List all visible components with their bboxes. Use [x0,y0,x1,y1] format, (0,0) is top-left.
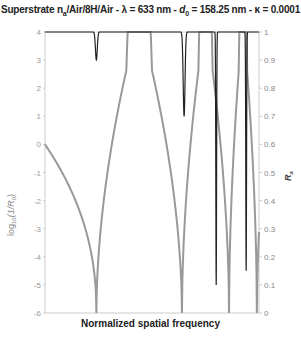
y-tick-left: -5 [34,281,42,290]
y-tick-right: 0 [264,309,269,318]
y-axis-right-label: Ra [283,170,294,181]
y-tick-right: 0.5 [264,169,276,178]
y-tick-left: 0 [37,140,42,149]
y-tick-right: 0.2 [264,253,276,262]
y-tick-left: 4 [37,28,42,37]
y-tick-left: 2 [37,84,42,93]
y-tick-left: -1 [34,169,42,178]
svg-text:log10(1/R0): log10(1/R0) [6,194,17,236]
y-tick-left: -6 [34,309,42,318]
y-tick-right: 0.1 [264,281,276,290]
y-tick-right: 0.7 [264,112,276,121]
y-tick-left: 1 [37,112,42,121]
y-axis-left-label: log10(1/R0) [6,194,17,236]
x-axis-label: Normalized spatial frequency [0,318,301,329]
y-tick-left: -2 [34,197,42,206]
y-axis-left: 43210-1-2-3-4-5-6 [34,28,45,318]
y-tick-right: 1 [264,28,269,37]
y-tick-right: 0.4 [264,197,276,206]
y-tick-right: 0.8 [264,84,276,93]
y-tick-left: 3 [37,56,42,65]
y-tick-right: 0.3 [264,225,276,234]
series-log-inv-r0 [45,32,259,313]
y-axis-right: 10.90.80.70.60.50.40.30.20.10 [259,28,276,318]
y-tick-right: 0.9 [264,56,276,65]
y-tick-left: -3 [34,225,42,234]
chart-plot: 43210-1-2-3-4-5-6 10.90.80.70.60.50.40.3… [0,0,301,339]
y-tick-left: -4 [34,253,42,262]
svg-text:Ra: Ra [283,170,294,181]
series-group [45,32,259,313]
y-tick-right: 0.6 [264,140,276,149]
